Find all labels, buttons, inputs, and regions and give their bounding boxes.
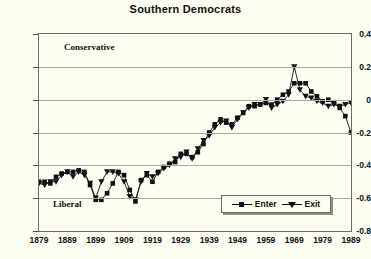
chart-title: Southern Democrats (0, 3, 371, 15)
data-point-square (281, 92, 286, 97)
data-point-triangle (325, 104, 331, 110)
gridline (39, 100, 351, 101)
data-point-square (122, 173, 127, 178)
data-point-square (292, 81, 297, 86)
data-point-triangle (70, 174, 76, 180)
data-point-square (315, 94, 320, 99)
annotation-conservative: Conservative (64, 42, 115, 52)
gridline (39, 133, 351, 134)
series-line (39, 83, 351, 201)
data-point-square (303, 81, 308, 86)
data-point-triangle (98, 179, 104, 185)
data-point-square (309, 89, 314, 94)
data-point-square (105, 191, 110, 196)
data-point-triangle (268, 105, 274, 111)
legend-label-enter: Enter (255, 199, 277, 209)
gridline (39, 165, 351, 166)
legend-item-exit[interactable]: Exit (282, 199, 321, 209)
data-point-triangle (42, 182, 48, 188)
legend-item-enter[interactable]: Enter (232, 199, 277, 209)
data-point-triangle (229, 125, 235, 131)
legend-marker-triangle-icon (282, 199, 302, 209)
legend-label-exit: Exit (305, 199, 321, 209)
data-point-triangle (39, 181, 42, 187)
data-point-square (150, 179, 155, 184)
x-tick-label: 1989 (334, 236, 368, 245)
annotation-liberal: Liberal (53, 199, 82, 209)
data-point-square (343, 114, 348, 119)
gridline (39, 67, 351, 68)
data-point-triangle (348, 100, 351, 106)
data-point-square (71, 170, 76, 175)
chart-container: Southern Democrats 0.40.20-0.2-0.4-0.6-0… (0, 0, 371, 259)
legend-marker-square-icon (232, 199, 252, 209)
data-point-square (110, 181, 115, 186)
legend[interactable]: Enter Exit (221, 195, 331, 213)
data-point-triangle (274, 102, 280, 108)
data-point-square (54, 175, 59, 180)
